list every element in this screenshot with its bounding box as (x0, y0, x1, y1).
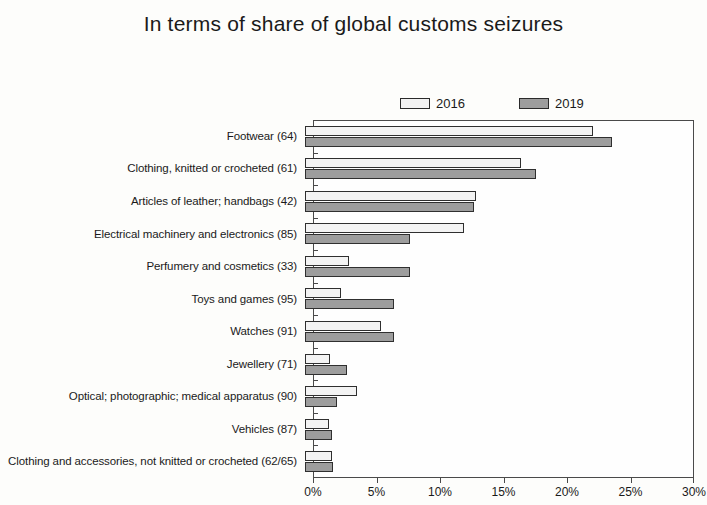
category-label: Clothing and accessories, not knitted or… (0, 455, 305, 468)
bar-group-row: Articles of leather; handbags (42) (0, 185, 707, 218)
bar-2019 (305, 462, 333, 472)
legend-item-2016: 2016 (400, 97, 465, 110)
category-label: Perfumery and cosmetics (33) (0, 260, 305, 273)
bar-group-row: Perfumery and cosmetics (33) (0, 250, 707, 283)
bar-pair (305, 153, 686, 186)
y-axis-tick (313, 445, 318, 446)
bar-2016 (305, 321, 381, 331)
bar-2016 (305, 288, 341, 298)
bar-group-row: Optical; photographic; medical apparatus… (0, 380, 707, 413)
bar-pair (305, 413, 686, 446)
bar-group-row: Vehicles (87) (0, 413, 707, 446)
chart-legend: 2016 2019 (400, 95, 584, 111)
legend-label-2016: 2016 (436, 97, 465, 110)
bar-2019 (305, 299, 394, 309)
bar-group-row: Watches (91) (0, 315, 707, 348)
bar-2016 (305, 451, 332, 461)
category-label: Articles of leather; handbags (42) (0, 195, 305, 208)
bar-2019 (305, 430, 332, 440)
x-axis-tick-label: 25% (618, 485, 642, 499)
x-axis-tick-label: 20% (555, 485, 579, 499)
bar-pair (305, 218, 686, 251)
x-axis: 0%5%10%15%20%25%30% (313, 478, 694, 504)
legend-swatch-2019-icon (519, 98, 549, 109)
bar-pair (305, 120, 686, 153)
bar-2019 (305, 397, 337, 407)
category-label: Jewellery (71) (0, 358, 305, 371)
bar-2019 (305, 202, 474, 212)
category-label: Toys and games (95) (0, 293, 305, 306)
bar-group-row: Jewellery (71) (0, 348, 707, 381)
y-axis-tick (313, 185, 318, 186)
x-axis-tick (631, 478, 632, 483)
category-label: Footwear (64) (0, 130, 305, 143)
bar-2019 (305, 137, 612, 147)
bar-pair (305, 315, 686, 348)
legend-swatch-2016-icon (400, 98, 430, 109)
bar-pair (305, 445, 686, 478)
x-axis-tick (504, 478, 505, 483)
bar-group-row: Footwear (64) (0, 120, 707, 153)
bar-group-row: Clothing and accessories, not knitted or… (0, 445, 707, 478)
bar-2016 (305, 386, 357, 396)
x-axis-tick-label: 15% (491, 485, 515, 499)
x-axis-tick-label: 5% (368, 485, 385, 499)
category-label: Electrical machinery and electronics (85… (0, 228, 305, 241)
y-axis-tick (313, 283, 318, 284)
x-axis-tick (693, 478, 694, 483)
bar-group-row: Electrical machinery and electronics (85… (0, 218, 707, 251)
bar-pair (305, 185, 686, 218)
x-axis-tick-label: 0% (304, 485, 321, 499)
bar-pair (305, 283, 686, 316)
y-axis-tick (313, 380, 318, 381)
bar-2019 (305, 332, 394, 342)
legend-item-2019: 2019 (519, 97, 584, 110)
y-axis-tick (313, 413, 318, 414)
bar-pair (305, 380, 686, 413)
y-axis-tick (313, 250, 318, 251)
category-label: Optical; photographic; medical apparatus… (0, 390, 305, 403)
legend-label-2019: 2019 (555, 97, 584, 110)
y-axis-tick (313, 348, 318, 349)
bar-2016 (305, 223, 464, 233)
bar-2016 (305, 354, 330, 364)
bar-2016 (305, 126, 593, 136)
x-axis-tick-label: 10% (428, 485, 452, 499)
category-label: Vehicles (87) (0, 423, 305, 436)
y-axis-tick (313, 153, 318, 154)
y-axis-tick (313, 218, 318, 219)
chart-title: In terms of share of global customs seiz… (0, 12, 707, 36)
bar-rows: Footwear (64)Clothing, knitted or croche… (0, 120, 707, 478)
bar-pair (305, 348, 686, 381)
x-axis-tick (313, 478, 314, 483)
category-label: Watches (91) (0, 325, 305, 338)
bar-2016 (305, 256, 349, 266)
bar-2019 (305, 365, 347, 375)
category-label: Clothing, knitted or crocheted (61) (0, 162, 305, 175)
x-axis-tick (440, 478, 441, 483)
x-axis-tick (377, 478, 378, 483)
bar-2019 (305, 267, 410, 277)
x-axis-tick (567, 478, 568, 483)
bar-2016 (305, 191, 476, 201)
bar-group-row: Clothing, knitted or crocheted (61) (0, 153, 707, 186)
bar-pair (305, 250, 686, 283)
bar-group-row: Toys and games (95) (0, 283, 707, 316)
chart-figure: In terms of share of global customs seiz… (0, 0, 707, 505)
bar-2019 (305, 169, 536, 179)
y-axis-tick (313, 315, 318, 316)
bar-2019 (305, 234, 410, 244)
x-axis-tick-label: 30% (682, 485, 706, 499)
bar-2016 (305, 419, 329, 429)
bar-2016 (305, 158, 521, 168)
